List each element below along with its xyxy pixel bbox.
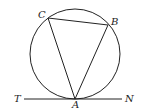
triangle-abc bbox=[48, 18, 108, 99]
label-t: T bbox=[14, 93, 22, 104]
label-c: C bbox=[38, 9, 46, 20]
label-b: B bbox=[110, 16, 118, 27]
geometry-diagram: C B A T N bbox=[0, 0, 148, 108]
label-n: N bbox=[124, 93, 135, 104]
label-a: A bbox=[71, 99, 79, 108]
circle bbox=[30, 9, 120, 99]
